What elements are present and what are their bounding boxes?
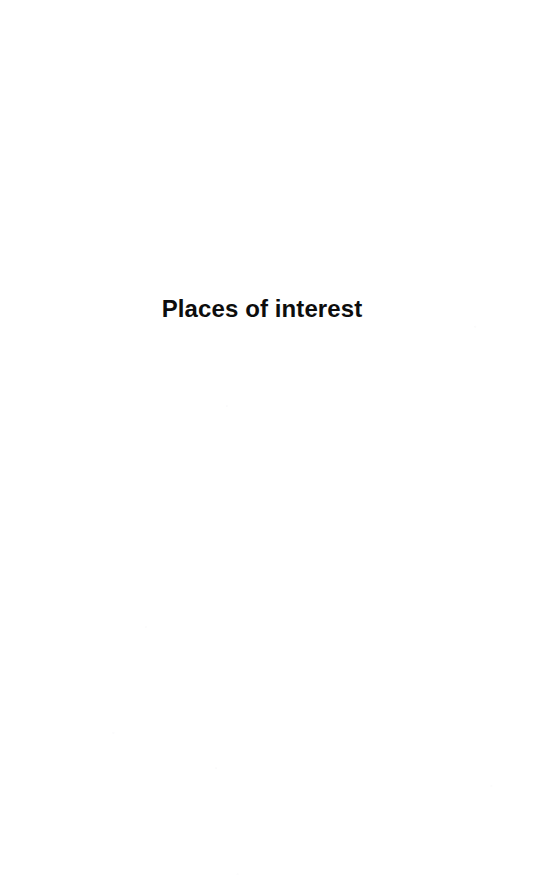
page-title: Places of interest: [162, 296, 363, 322]
paper-texture: [0, 0, 540, 883]
scanned-page: Places of interest: [0, 0, 540, 883]
section-title-block: Places of interest: [0, 296, 540, 322]
